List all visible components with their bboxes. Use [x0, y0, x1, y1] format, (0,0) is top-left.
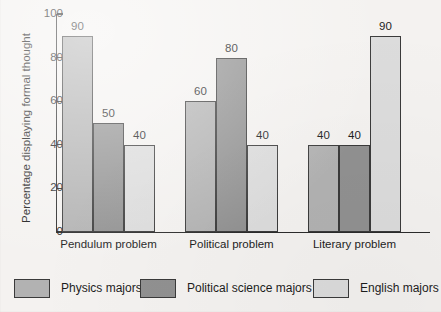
y-axis-tick-label: 80 [37, 52, 63, 64]
x-axis-category-label: Pendulum problem [49, 238, 169, 250]
legend-item: Political science majors [140, 277, 312, 299]
bar-value-label: 50 [85, 108, 132, 120]
y-axis-line [56, 14, 57, 233]
y-axis-tick-label: 20 [37, 182, 63, 194]
legend-swatch [140, 279, 176, 298]
legend-label: Political science majors [187, 281, 312, 295]
x-axis-category-label: Literary problem [295, 238, 415, 250]
x-axis-category-label: Political problem [172, 238, 292, 250]
bar-value-label: 40 [239, 130, 286, 142]
bar-value-label: 90 [362, 21, 409, 33]
chart-legend: Physics majorsPolitical science majorsEn… [0, 277, 441, 301]
y-axis-title: Percentage displaying formal thought [20, 30, 32, 226]
legend-swatch [14, 279, 50, 298]
bar-value-label: 80 [208, 43, 255, 55]
bar [62, 36, 93, 232]
bar [339, 145, 370, 232]
y-axis-tick-label: 0 [37, 226, 63, 238]
y-axis-tick-label: 40 [37, 139, 63, 151]
legend-item: Physics majors [14, 277, 142, 299]
legend-label: English majors [360, 281, 439, 295]
bar [370, 36, 401, 232]
bar-value-label: 40 [116, 130, 163, 142]
legend-label: Physics majors [61, 281, 142, 295]
bar [216, 58, 247, 232]
bar [247, 145, 278, 232]
y-axis-tick-label: 100 [37, 8, 63, 20]
bar [185, 101, 216, 232]
bar-chart-screenshot: 020406080100 Percentage displaying forma… [0, 0, 441, 312]
bar-value-label: 90 [54, 21, 101, 33]
bar [124, 145, 155, 232]
bar [308, 145, 339, 232]
y-axis-tick-label: 60 [37, 95, 63, 107]
legend-item: English majors [313, 277, 439, 299]
legend-swatch [313, 279, 349, 298]
